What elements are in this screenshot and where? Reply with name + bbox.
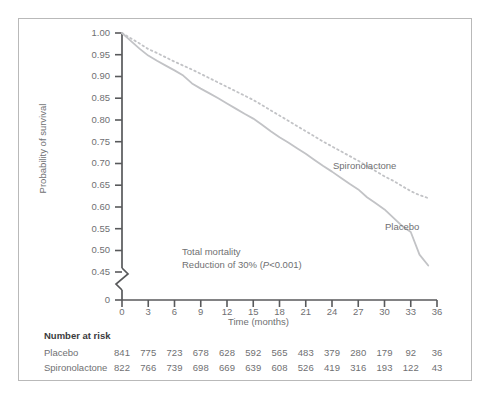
annotation-suffix: <0.001): [269, 259, 302, 270]
y-tick-label: 0: [76, 294, 110, 305]
risk-cell: 122: [398, 362, 424, 373]
x-tick-label: 36: [424, 306, 450, 317]
risk-cell: 775: [135, 347, 161, 358]
risk-cell: 316: [345, 362, 371, 373]
annotation-line-2: Reduction of 30% (P<0.001): [182, 258, 302, 271]
risk-cell: 379: [319, 347, 345, 358]
x-tick-label: 21: [293, 306, 319, 317]
risk-cell: 565: [267, 347, 293, 358]
x-tick-label: 3: [135, 306, 161, 317]
x-tick-label: 9: [188, 306, 214, 317]
risk-cell: 628: [214, 347, 240, 358]
curve-label-spironolactone: Spironolactone: [333, 160, 396, 171]
annotation-prefix: Reduction of 30% (: [182, 259, 263, 270]
risk-cell: 669: [214, 362, 240, 373]
risk-cell: 36: [424, 347, 450, 358]
risk-cell: 592: [240, 347, 266, 358]
y-tick-label: 0.90: [76, 70, 110, 81]
risk-cell: 483: [293, 347, 319, 358]
curve-placebo: [122, 33, 428, 265]
y-tick-label: 0.75: [76, 136, 110, 147]
y-tick-label: 0.65: [76, 179, 110, 190]
risk-table-title: Number at risk: [44, 330, 111, 341]
risk-cell: 92: [398, 347, 424, 358]
risk-cell: 739: [162, 362, 188, 373]
risk-cell: 841: [109, 347, 135, 358]
risk-row-label: Placebo: [44, 347, 78, 358]
risk-cell: 723: [162, 347, 188, 358]
survival-curve-figure: Probability of survival Time (months) 00…: [0, 0, 491, 399]
y-tick-label: 0.60: [76, 201, 110, 212]
x-axis-label: Time (months): [228, 316, 289, 327]
x-tick-label: 33: [398, 306, 424, 317]
risk-cell: 766: [135, 362, 161, 373]
annotation-line-1: Total mortality: [182, 245, 302, 258]
risk-cell: 193: [372, 362, 398, 373]
y-axis-label: Probability of survival: [37, 89, 48, 209]
risk-cell: 419: [319, 362, 345, 373]
x-tick-label: 27: [345, 306, 371, 317]
x-tick-label: 12: [214, 306, 240, 317]
y-tick-label: 0.45: [76, 266, 110, 277]
risk-cell: 822: [109, 362, 135, 373]
risk-row-label: Spironolactone: [44, 362, 107, 373]
x-tick-label: 6: [162, 306, 188, 317]
mortality-annotation: Total mortality Reduction of 30% (P<0.00…: [182, 245, 302, 271]
y-tick-label: 0.70: [76, 157, 110, 168]
risk-cell: 698: [188, 362, 214, 373]
x-tick-label: 18: [267, 306, 293, 317]
risk-cell: 526: [293, 362, 319, 373]
x-tick-label: 0: [109, 306, 135, 317]
risk-cell: 678: [188, 347, 214, 358]
y-tick-label: 0.80: [76, 114, 110, 125]
risk-cell: 280: [345, 347, 371, 358]
x-tick-label: 24: [319, 306, 345, 317]
y-tick-label: 0.95: [76, 49, 110, 60]
y-tick-label: 0.85: [76, 92, 110, 103]
x-tick-label: 15: [240, 306, 266, 317]
y-tick-label: 0.55: [76, 223, 110, 234]
curve-spironolactone: [122, 33, 428, 198]
x-tick-label: 30: [372, 306, 398, 317]
y-axis-ticks: [115, 33, 122, 300]
y-tick-label: 1.00: [76, 27, 110, 38]
y-tick-label: 0.50: [76, 244, 110, 255]
risk-cell: 639: [240, 362, 266, 373]
risk-cell: 43: [424, 362, 450, 373]
risk-cell: 179: [372, 347, 398, 358]
curve-label-placebo: Placebo: [385, 221, 419, 232]
risk-cell: 608: [267, 362, 293, 373]
